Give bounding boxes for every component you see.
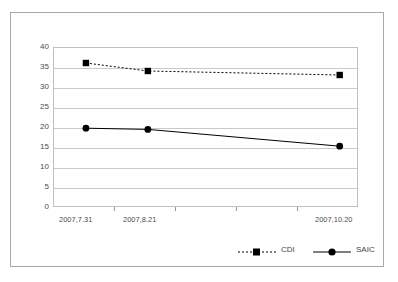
gridline [54, 168, 357, 169]
x-tick-label: 2007,10.20 [315, 215, 353, 225]
y-tick-label: 0 [25, 203, 49, 211]
gridline [54, 148, 357, 149]
y-tick-label: 30 [25, 83, 49, 91]
x-tick [297, 207, 298, 211]
gridline [54, 88, 357, 89]
y-tick-label: 35 [25, 63, 49, 71]
solid-line-circle-marker-icon [313, 244, 351, 256]
x-axis-ticks [53, 207, 358, 212]
gridline [54, 188, 357, 189]
gridline [54, 128, 357, 129]
x-tick-label: 2007,8.21 [123, 215, 156, 225]
gridline [54, 108, 357, 109]
gridline [54, 68, 357, 69]
x-tick [175, 207, 176, 211]
chart-legend: CDI SAIC [238, 243, 378, 259]
plot-area [53, 47, 358, 207]
x-tick [114, 207, 115, 211]
y-tick-label: 40 [25, 43, 49, 51]
y-axis: 40 35 30 25 20 15 10 5 0 [25, 47, 49, 207]
dotted-line-square-marker-icon [238, 244, 276, 256]
legend-entry-cdi[interactable]: CDI [238, 243, 295, 257]
y-tick-label: 20 [25, 123, 49, 131]
y-tick-label: 15 [25, 143, 49, 151]
chart-figure: 40 35 30 25 20 15 10 5 0 [0, 0, 398, 282]
y-tick-label: 25 [25, 103, 49, 111]
x-tick [236, 207, 237, 211]
legend-label-cdi: CDI [281, 244, 295, 256]
x-tick-label: 2007,7.31 [59, 215, 92, 225]
legend-entry-saic[interactable]: SAIC [313, 243, 375, 257]
x-axis: 2007,7.31 2007,8.21 2007,10.20 [53, 215, 373, 229]
legend-label-saic: SAIC [356, 244, 375, 256]
y-tick-label: 5 [25, 183, 49, 191]
y-tick-label: 10 [25, 163, 49, 171]
